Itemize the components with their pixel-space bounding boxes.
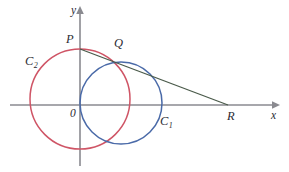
secant-line-pqr	[80, 49, 228, 105]
point-label-q: Q	[114, 37, 123, 50]
point-label-r: R	[227, 110, 235, 123]
circle-label-c1-subscript: 1	[169, 121, 173, 130]
y-axis-label: y	[71, 5, 76, 17]
y-axis-arrowhead	[76, 6, 84, 14]
x-axis-arrowhead	[272, 101, 280, 109]
y-axis	[76, 6, 84, 166]
point-label-p: P	[66, 33, 74, 46]
x-axis	[10, 101, 280, 109]
circle-c1	[80, 62, 162, 144]
circle-label-c1: C1	[160, 115, 172, 128]
origin-label: 0	[70, 108, 76, 120]
circle-label-c2-subscript: 2	[34, 61, 38, 70]
circle-label-c2: C2	[25, 55, 37, 68]
circle-label-c1-base: C	[160, 114, 168, 128]
circle-label-c2-base: C	[25, 54, 33, 68]
x-axis-label: x	[271, 110, 276, 122]
figure-canvas	[0, 0, 289, 172]
geometry-figure: P Q R 0 x y C2 C1	[0, 0, 289, 172]
